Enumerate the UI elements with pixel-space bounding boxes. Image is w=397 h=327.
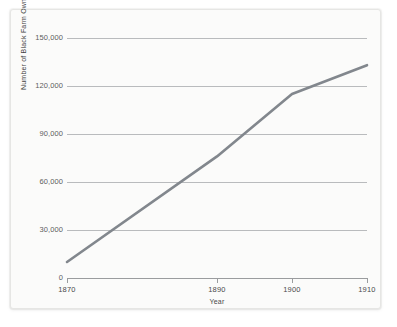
x-axis-title: Year (67, 298, 367, 305)
y-axis-title: Number of Black Farm Owners (20, 0, 27, 90)
chart-panel: 030,00060,00090,000120,000150,000 187018… (10, 9, 381, 309)
y-axis-tick-label: 90,000 (39, 130, 63, 138)
line-series-layer (67, 38, 367, 278)
y-axis-tick-label: 30,000 (39, 226, 63, 234)
x-axis-tick-label: 1890 (208, 286, 226, 294)
x-axis-tick (67, 278, 68, 283)
x-axis-tick (367, 278, 368, 283)
line-series-path (67, 65, 367, 262)
y-axis-tick-labels: 030,00060,00090,000120,000150,000 (11, 10, 63, 310)
x-axis-tick-label: 1910 (358, 286, 376, 294)
x-axis-tick-label: 1870 (58, 286, 76, 294)
y-axis-tick-label: 60,000 (39, 178, 63, 186)
y-axis-tick-label: 120,000 (35, 82, 63, 90)
y-axis-tick-label: 0 (59, 274, 63, 282)
x-axis-tick-label: 1900 (283, 286, 301, 294)
chart-page: 030,00060,00090,000120,000150,000 187018… (0, 0, 397, 327)
x-axis-tick (217, 278, 218, 283)
x-axis-tick (292, 278, 293, 283)
y-axis-tick-label: 150,000 (35, 34, 63, 42)
